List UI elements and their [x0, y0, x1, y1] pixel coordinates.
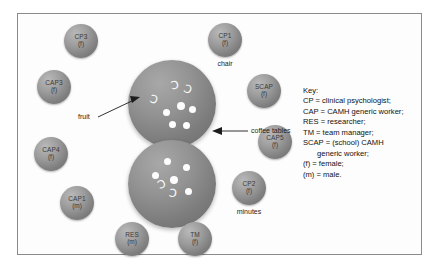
person-sex: (f) — [222, 40, 228, 47]
person-node-cap4[interactable]: CAP4 (f) — [34, 137, 68, 171]
person-node-cp3[interactable]: CP3 (f) — [64, 24, 98, 58]
key-line-cp: CP = clinical psychologist; — [303, 96, 404, 106]
caption-minutes: minutes — [227, 208, 271, 215]
annotation-coffee-tables: coffee tables — [251, 127, 291, 134]
diagram-canvas: Ɔ Ɔ Ɔ Ɔ Ɔ CP3 (f) CP1 (f) chair CAP3 (f)… — [0, 0, 440, 272]
person-sex: (m) — [127, 239, 137, 246]
person-sex: (f) — [272, 142, 278, 149]
table-item-dot — [183, 122, 190, 129]
person-sex: (f) — [78, 41, 84, 48]
table-item-dot — [170, 176, 178, 184]
person-sex: (f) — [51, 87, 57, 94]
table-item-dot — [183, 164, 190, 171]
key-title: Key: — [303, 86, 404, 96]
person-node-cap1[interactable]: CAP1 (m) — [60, 186, 94, 220]
person-sex: (f) — [192, 239, 198, 246]
key-line-scap-cont: generic worker; — [303, 149, 404, 159]
table-item-dot — [163, 109, 170, 116]
key-line-cap: CAP = CAMH generic worker; — [303, 107, 404, 117]
key-line-tm: TM = team manager; — [303, 128, 404, 138]
table-item-dot — [164, 158, 171, 165]
fruit-crescent-icon: Ɔ — [170, 79, 180, 91]
fruit-crescent-icon: Ɔ — [182, 83, 193, 96]
fruit-crescent-icon: Ɔ — [156, 178, 168, 191]
coffee-table-upper: Ɔ Ɔ Ɔ — [128, 60, 216, 148]
coffee-table-lower: Ɔ Ɔ — [128, 140, 216, 228]
table-item-dot — [185, 188, 192, 195]
key-line-res: RES = researcher; — [303, 117, 404, 127]
annotation-fruit: fruit — [78, 113, 90, 120]
person-node-cap3[interactable]: CAP3 (f) — [37, 70, 71, 104]
person-node-tm[interactable]: TM (f) — [178, 222, 212, 256]
person-sex: (f) — [246, 188, 252, 195]
table-item-dot — [177, 102, 185, 110]
person-node-res[interactable]: RES (m) — [115, 222, 149, 256]
table-item-dot — [169, 121, 176, 128]
person-sex: (m) — [72, 203, 82, 210]
key-line-female: (f) = female; — [303, 159, 404, 169]
legend-key: Key: CP = clinical psychologist; CAP = C… — [303, 86, 404, 180]
fruit-crescent-icon: Ɔ — [168, 187, 178, 199]
table-item-dot — [189, 106, 196, 113]
person-sex: (f) — [261, 91, 267, 98]
caption-chair: chair — [208, 60, 242, 67]
person-node-cp2[interactable]: CP2 (f) — [232, 171, 266, 205]
person-sex: (f) — [48, 154, 54, 161]
key-line-male: (m) = male. — [303, 170, 404, 180]
person-node-scap[interactable]: SCAP (f) — [247, 74, 281, 108]
person-node-cp1[interactable]: CP1 (f) — [208, 23, 242, 57]
fruit-crescent-icon: Ɔ — [149, 93, 159, 106]
key-line-scap: SCAP = (school) CAMH — [303, 138, 404, 148]
